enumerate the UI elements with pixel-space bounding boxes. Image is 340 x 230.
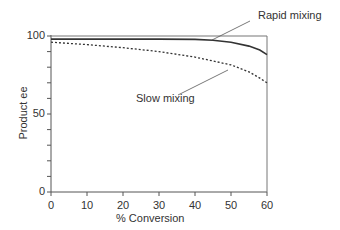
chart-plot: [0, 0, 340, 230]
y-tick-100: 100: [15, 29, 45, 41]
x-tick-50: 50: [225, 199, 237, 211]
x-tick-60: 60: [261, 199, 273, 211]
x-tick-40: 40: [189, 199, 201, 211]
x-tick-10: 10: [81, 199, 93, 211]
y-axis-label: Product ee: [17, 83, 29, 143]
annotation-slow-mixing: Slow mixing: [136, 92, 195, 104]
x-tick-30: 30: [153, 199, 165, 211]
x-tick-0: 0: [48, 199, 54, 211]
y-tick-0: 0: [15, 185, 45, 197]
annotation-rapid-mixing: Rapid mixing: [258, 9, 322, 21]
x-tick-20: 20: [117, 199, 129, 211]
x-axis-label: % Conversion: [116, 212, 184, 224]
